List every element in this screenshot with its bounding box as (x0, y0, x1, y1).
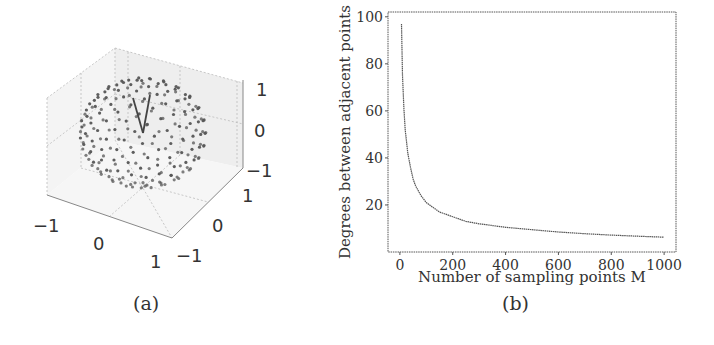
y-tick-neg1: −1 (176, 245, 203, 266)
y-tick-label: 60 (365, 103, 383, 119)
y-tick-label: 80 (365, 56, 383, 72)
caption-a: (a) (133, 292, 159, 314)
caption-b: (b) (502, 292, 529, 314)
x-axis-label: Number of sampling points M (418, 268, 646, 286)
x-tick-label: 0 (395, 257, 404, 273)
y-tick-label: 40 (365, 150, 383, 166)
z-tick-neg1: −1 (246, 160, 273, 181)
plot-area (388, 12, 676, 252)
y-tick-label: 20 (365, 197, 383, 213)
y-tick-label: 100 (356, 9, 383, 25)
y-tick-0: 0 (212, 215, 223, 236)
x-tick-1: 1 (150, 251, 161, 272)
y-axis-label: Degrees between adjacent points (336, 5, 354, 259)
y-tick-1: 1 (242, 185, 253, 206)
x-tick-neg1: −1 (33, 215, 60, 236)
y-axis-ticks: 20406080100 (356, 9, 388, 213)
z-tick-1: 1 (256, 79, 267, 100)
x-tick-0: 0 (93, 233, 104, 254)
z-tick-0: 0 (254, 120, 265, 141)
x-tick-label: 1000 (646, 257, 682, 273)
